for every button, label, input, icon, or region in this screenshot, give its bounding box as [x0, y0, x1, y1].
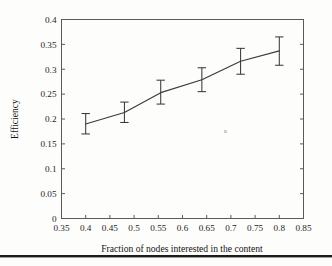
x-tick-label: 0.55: [150, 223, 166, 233]
x-tick-label: 0.85: [295, 223, 311, 233]
y-tick-label: 0.25: [40, 89, 56, 99]
plot-frame: [62, 20, 304, 219]
x-tick-label: 0.7: [225, 223, 237, 233]
x-tick-label: 0.65: [199, 223, 215, 233]
x-tick-label: 0.5: [128, 223, 140, 233]
x-tick-label: 0.35: [53, 223, 69, 233]
x-axis-tick-marks: [62, 215, 304, 219]
y-axis-tick-labels: 00.050.10.150.20.250.30.350.4: [40, 15, 56, 224]
x-tick-label: 0.75: [247, 223, 263, 233]
y-tick-label: 0.4: [45, 15, 57, 25]
chart-figure: 0.350.40.450.50.550.60.650.70.750.80.85 …: [0, 0, 332, 266]
y-axis-tick-marks: [62, 20, 304, 219]
y-tick-label: 0.2: [45, 114, 57, 124]
y-tick-label: 0.35: [40, 40, 56, 50]
y-tick-label: 0.15: [40, 139, 56, 149]
x-tick-label: 0.45: [102, 223, 118, 233]
x-axis-tick-labels: 0.350.40.450.50.550.60.650.70.750.80.85: [53, 223, 311, 233]
y-tick-label: 0: [52, 214, 57, 224]
series-line-efficiency: [86, 51, 280, 124]
x-axis-title: Fraction of nodes interested in the cont…: [101, 243, 263, 254]
x-tick-label: 0.6: [177, 223, 189, 233]
x-tick-label: 0.4: [80, 223, 92, 233]
scan-rule-bottom: [0, 255, 332, 257]
y-tick-label: 0.05: [40, 189, 56, 199]
chart-canvas: 0.350.40.450.50.550.60.650.70.750.80.85 …: [0, 0, 332, 266]
x-tick-label: 0.8: [274, 223, 286, 233]
scan-speck-right: [224, 130, 227, 133]
y-axis-title: Efficiency: [9, 99, 20, 139]
y-tick-label: 0.3: [45, 65, 57, 75]
y-tick-label: 0.1: [45, 164, 57, 174]
